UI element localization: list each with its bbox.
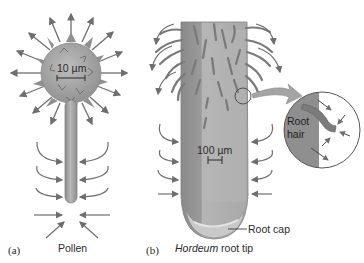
root-stele [203, 30, 246, 202]
panel-b-label: (b) [146, 244, 159, 256]
root-hair-label-line1: Root [287, 115, 309, 127]
root-hair-label-line2: hair [287, 128, 305, 140]
callout-arrow [252, 84, 302, 104]
root-cap-label: Root cap [248, 223, 290, 235]
root-tip-diagram [152, 22, 364, 239]
species-name: Hordeum [175, 242, 218, 254]
pollen-scale-label: 10 µm [57, 62, 86, 74]
pollen-tube [65, 100, 77, 203]
pollen-diagram [11, 14, 127, 238]
figure: 10 µm (a) Pollen 100 µm Root cap Root ha… [0, 0, 364, 263]
panel-a-label: (a) [8, 244, 20, 256]
root-tip-caption: Hordeum root tip [175, 242, 253, 254]
pollen-caption: Pollen [58, 242, 87, 254]
root-tip-caption-rest: root tip [218, 242, 253, 254]
root-scale-label: 100 µm [197, 144, 232, 156]
